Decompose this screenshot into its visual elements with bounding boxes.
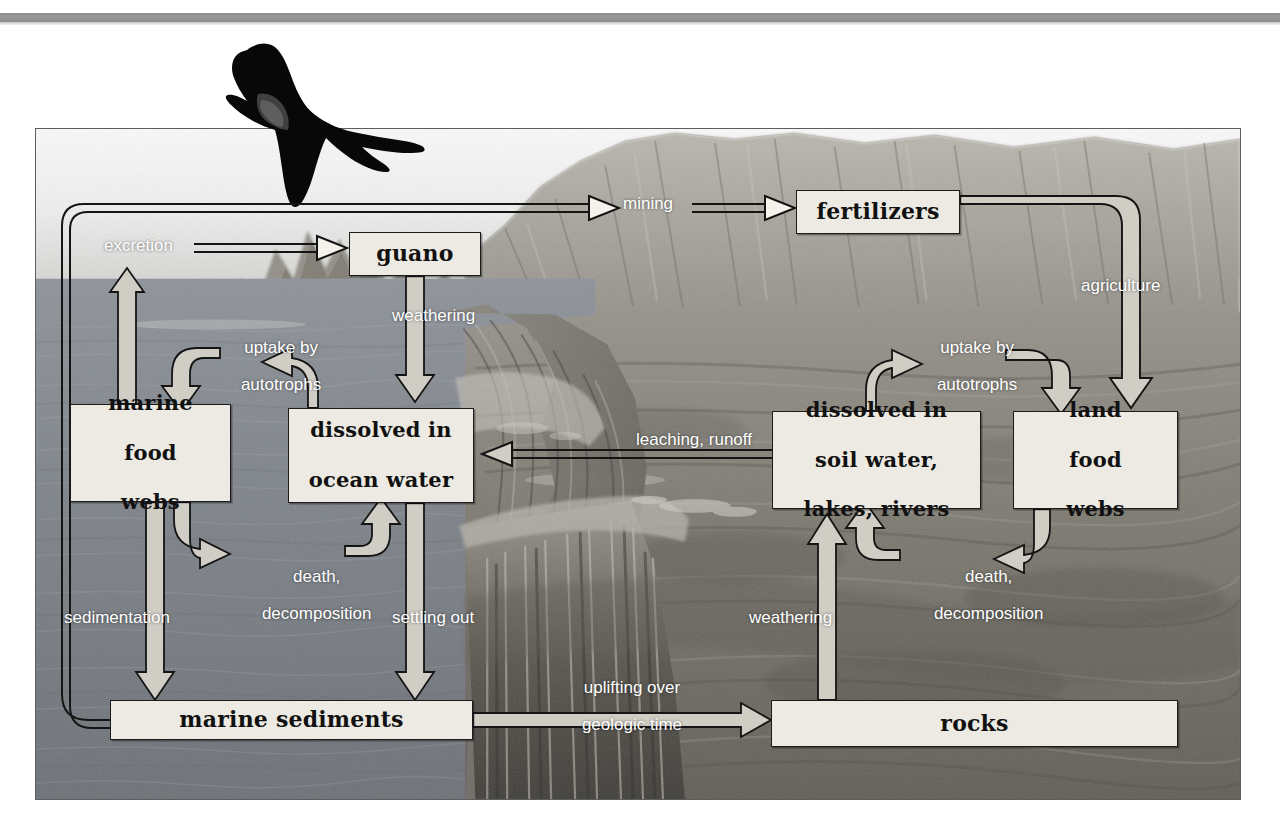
node-rocks-label: rocks [934,711,1014,737]
line-2: autotrophs [937,375,1017,394]
flow-label-weathering-rocks: weathering [749,609,832,628]
flow-label-weathering-guano: weathering [392,307,475,326]
line-1: uptake by [940,338,1014,357]
node-dissolved-ocean-label: dissolved in ocean water [297,418,465,492]
flow-label-death-decomposition-marine: death, decomposition [243,549,372,642]
line-2: food [102,441,199,466]
flow-label-excretion: excretion [104,237,173,256]
line-1: dissolved in [303,418,459,443]
node-fertilizers-label: fertilizers [811,199,946,225]
node-rocks[interactable]: rocks [771,700,1178,747]
top-rule-shadow [0,22,1280,25]
line-2: autotrophs [241,375,321,394]
node-dissolved-soil-label: dissolved in soil water, lakes, rivers [791,398,961,522]
flow-label-uptake-by-autotrophs-land: uptake by autotrophs [918,320,1017,413]
node-marine-food-webs[interactable]: marine food webs [70,404,231,502]
node-dissolved-in-ocean-water[interactable]: dissolved in ocean water [288,408,474,503]
line-1: uplifting over [584,678,680,697]
line-3: webs [1060,497,1131,522]
top-rule-divider [0,13,1280,22]
flow-label-leaching-runoff: leaching, runoff [636,431,752,450]
line-3: lakes, rivers [797,497,955,522]
node-land-food-webs[interactable]: land food webs [1013,411,1178,509]
line-1: land [1060,398,1131,423]
page-root: guano fertilizers marine food webs disso… [0,0,1280,830]
flow-label-mining: mining [623,195,673,214]
flow-label-death-decomposition-land: death, decomposition [915,549,1044,642]
line-1: uptake by [244,338,318,357]
frigatebird-silhouette-icon [186,38,430,210]
line-2: food [1060,448,1131,473]
line-2: decomposition [262,604,372,623]
line-1: death, [293,567,340,586]
node-marine-sediments[interactable]: marine sediments [110,700,473,740]
line-2: geologic time [582,715,682,734]
node-guano-label: guano [370,241,459,267]
line-3: webs [102,490,199,515]
node-land-food-webs-label: land food webs [1054,398,1137,522]
flow-label-uptake-by-autotrophs-marine: uptake by autotrophs [222,320,321,413]
node-fertilizers[interactable]: fertilizers [796,190,960,234]
line-2: decomposition [934,604,1044,623]
flow-label-uplifting-over-geologic-time: uplifting over geologic time [563,660,682,753]
flow-label-sedimentation: sedimentation [64,609,170,628]
node-marine-food-webs-label: marine food webs [96,391,205,515]
node-guano[interactable]: guano [349,232,481,276]
line-2: soil water, [797,448,955,473]
flow-label-agriculture: agriculture [1081,277,1160,296]
flow-label-settling-out: settling out [392,609,474,628]
line-2: ocean water [303,468,459,493]
line-1: marine [102,391,199,416]
line-1: death, [965,567,1012,586]
node-marine-sediments-label: marine sediments [173,707,409,733]
node-dissolved-in-soil-water[interactable]: dissolved in soil water, lakes, rivers [772,411,981,509]
